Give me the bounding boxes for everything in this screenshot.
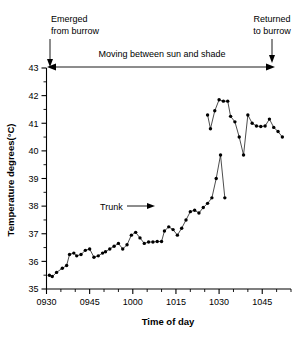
trunk-label: Trunk [100, 202, 123, 212]
data-point [210, 196, 213, 199]
data-point [156, 240, 159, 243]
data-point [281, 135, 284, 138]
y-tick-label: 37 [28, 229, 38, 239]
data-series-group [48, 98, 284, 278]
y-tick-label: 40 [28, 146, 38, 156]
data-point [138, 236, 141, 239]
data-point [125, 243, 128, 246]
data-point [222, 99, 225, 102]
data-point [84, 249, 87, 252]
data-point [88, 247, 91, 250]
data-point [184, 218, 187, 221]
x-tick-label: 1000 [123, 297, 143, 307]
data-point [61, 267, 64, 270]
data-point [180, 227, 183, 230]
data-point [246, 113, 249, 116]
data-point [72, 251, 75, 254]
data-point [197, 211, 200, 214]
data-point [272, 126, 275, 129]
data-point [213, 109, 216, 112]
data-point [250, 122, 253, 125]
data-point [151, 240, 154, 243]
moving-sun-shade-label: Moving between sun and shade [98, 49, 225, 59]
data-point [65, 264, 68, 267]
data-point [171, 228, 174, 231]
temperature-time-chart: Emerged from burrow Returned to burrow M… [0, 0, 305, 337]
data-point [55, 271, 58, 274]
data-point [276, 130, 279, 133]
returned-arrow-icon [269, 39, 275, 63]
y-tick-label: 38 [28, 201, 38, 211]
data-point [112, 244, 115, 247]
y-tick-label: 36 [28, 257, 38, 267]
emerged-label-line1: Emerged [51, 14, 88, 24]
x-axis-ticks: 093009451000101510301045 [36, 289, 291, 307]
data-point [108, 247, 111, 250]
y-tick-label: 43 [28, 63, 38, 73]
returned-label-line2: to burrow [253, 26, 291, 36]
data-point [268, 117, 271, 120]
y-axis-ticks: 353637383940414243 [28, 63, 46, 294]
x-tick-label: 1030 [209, 297, 229, 307]
x-tick-label: 0945 [80, 297, 100, 307]
trunk-arrow-icon [127, 203, 155, 209]
data-point [189, 210, 192, 213]
returned-label-line1: Returned [253, 14, 290, 24]
data-point [219, 153, 222, 156]
data-point [167, 225, 170, 228]
data-point [160, 240, 163, 243]
series-line [208, 100, 283, 155]
data-point [229, 115, 232, 118]
data-point [163, 229, 166, 232]
data-point [92, 256, 95, 259]
data-point [223, 196, 226, 199]
data-point [68, 253, 71, 256]
data-point [101, 251, 104, 254]
data-point [263, 124, 266, 127]
data-point [143, 242, 146, 245]
data-point [238, 135, 241, 138]
y-axis-title: Temperature degrees(°C) [5, 124, 16, 237]
data-point [209, 127, 212, 130]
y-tick-label: 39 [28, 174, 38, 184]
moving-sun-shade-double-arrow-icon [47, 64, 275, 71]
data-point [255, 124, 258, 127]
data-point [202, 206, 205, 209]
x-axis-title: Time of day [142, 316, 195, 327]
data-point [259, 125, 262, 128]
y-tick-label: 42 [28, 91, 38, 101]
x-tick-label: 1015 [166, 297, 186, 307]
data-point [176, 233, 179, 236]
data-point [134, 231, 137, 234]
data-point [233, 120, 236, 123]
data-point [97, 254, 100, 257]
emerged-label-line2: from burrow [51, 26, 100, 36]
data-point [79, 253, 82, 256]
data-point [217, 98, 220, 101]
data-point [147, 240, 150, 243]
x-tick-label: 1045 [252, 297, 272, 307]
data-point [193, 209, 196, 212]
data-point [104, 250, 107, 253]
data-point [242, 153, 245, 156]
data-point [130, 233, 133, 236]
data-point [51, 275, 54, 278]
data-point [117, 242, 120, 245]
series-line [49, 155, 224, 277]
data-point [121, 247, 124, 250]
emerged-arrow-icon [47, 39, 53, 67]
data-point [75, 254, 78, 257]
x-tick-label: 0930 [36, 297, 56, 307]
y-tick-label: 41 [28, 119, 38, 129]
data-point [206, 113, 209, 116]
y-tick-label: 35 [28, 284, 38, 294]
data-point [206, 202, 209, 205]
data-point [215, 177, 218, 180]
data-point [226, 99, 229, 102]
